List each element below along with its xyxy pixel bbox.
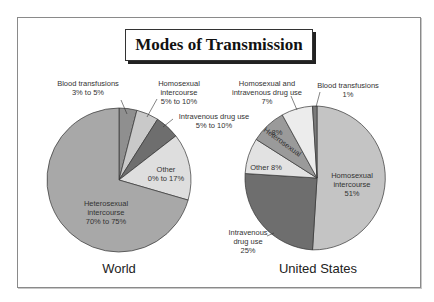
us-label-blood-pct: 1%	[343, 90, 354, 99]
world-label-hetero: Heterosexual	[84, 199, 129, 208]
world-label-blood-pct: 3% to 5%	[72, 88, 104, 97]
charts-canvas: Blood transfusions 3% to 5% Homosexual i…	[0, 0, 434, 302]
us-caption: United States	[279, 261, 358, 276]
world-label-homo-pct: 5% to 10%	[161, 97, 198, 106]
world-label-other-pct: 0% to 17%	[148, 174, 185, 183]
us-label-iv: Intravenous	[228, 228, 267, 237]
us-label-other: Other 8%	[250, 163, 282, 172]
us-label-homo-iv-pct: 7%	[262, 97, 273, 106]
world-label-iv: Intravenous drug use	[179, 112, 249, 121]
us-label-iv-pct: 25%	[240, 246, 255, 255]
us-label-homo-iv: Homosexual and	[239, 79, 295, 88]
world-label-homo-2: intercourse	[160, 88, 197, 97]
us-label-iv-2: drug use	[233, 237, 262, 246]
world-label-homo: Homosexual	[158, 79, 200, 88]
us-label-homo-iv-2: intravenous drug use	[232, 88, 302, 97]
us-label-homo-pct: 51%	[344, 189, 359, 198]
world-label-blood: Blood transfusions	[57, 79, 119, 88]
world-label-hetero-pct: 70% to 75%	[86, 217, 127, 226]
world-label-other: Other	[157, 165, 176, 174]
world-caption: World	[102, 261, 136, 276]
us-label-homo: Homosexual	[331, 171, 373, 180]
us-label-blood: Blood transfusions	[317, 81, 379, 90]
world-label-iv-pct: 5% to 10%	[196, 121, 233, 130]
world-label-hetero-2: intercourse	[87, 208, 124, 217]
us-label-homo-2: intercourse	[333, 180, 370, 189]
